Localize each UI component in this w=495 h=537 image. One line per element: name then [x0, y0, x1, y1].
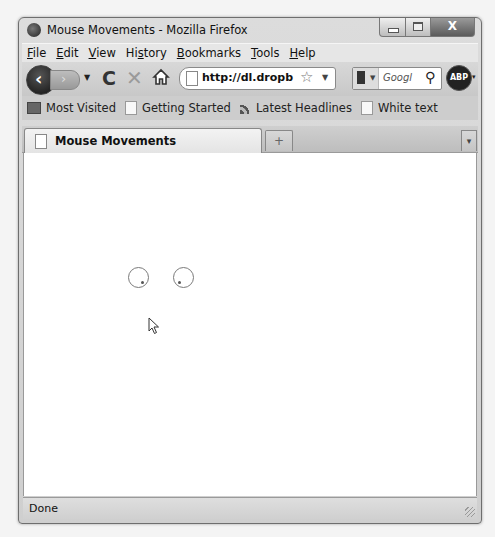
google-icon [357, 71, 365, 84]
right-eye [173, 267, 194, 288]
mouse-cursor-icon [148, 317, 160, 335]
tab-strip: Mouse Movements + ▾ [22, 126, 478, 153]
page-icon [125, 101, 137, 115]
maximize-button[interactable] [406, 18, 431, 37]
menu-edit[interactable]: Edit [51, 46, 83, 60]
title-bar[interactable]: Mouse Movements - Mozilla Firefox X [19, 18, 481, 42]
page-content[interactable] [23, 153, 477, 496]
folder-icon [27, 102, 41, 114]
forward-button[interactable]: › [50, 70, 80, 90]
adblock-dropdown-icon[interactable]: ▾ [472, 73, 476, 81]
back-arrow-icon: ‹ [35, 68, 42, 89]
menu-help[interactable]: Help [284, 46, 320, 60]
bookmark-label: Getting Started [142, 101, 231, 115]
tab-mouse-movements[interactable]: Mouse Movements [24, 128, 262, 153]
engine-dropdown-icon: ▼ [370, 74, 375, 82]
menu-view-label: iew [96, 46, 116, 60]
search-bar[interactable]: ▼ Googl ⚲ [352, 67, 442, 90]
firefox-icon [27, 23, 41, 37]
bookmark-latest-headlines[interactable]: Latest Headlines [240, 101, 352, 115]
menu-edit-label: dit [64, 46, 79, 60]
adblock-plus-button[interactable]: ABP [446, 65, 472, 91]
menu-bookmarks-label: ookmarks [185, 46, 241, 60]
close-button[interactable]: X [431, 18, 475, 37]
url-dropdown-icon[interactable]: ▼ [322, 73, 328, 82]
url-bar[interactable]: http://dl.dropb ☆ ▼ [179, 67, 336, 90]
resize-grip[interactable] [465, 507, 475, 517]
menu-bookmarks-mnemonic: B [177, 46, 185, 60]
navigation-toolbar: ‹ › ▼ C ✕ http://dl.dropb ☆ ▼ ▼ Googl ⚲ … [22, 62, 478, 96]
bookmark-label: Most Visited [46, 101, 116, 115]
page-icon [35, 134, 47, 149]
home-icon[interactable] [152, 68, 170, 86]
stop-button[interactable]: ✕ [126, 66, 143, 90]
menu-help-mnemonic: H [289, 46, 298, 60]
rss-icon [240, 103, 251, 114]
new-tab-button[interactable]: + [265, 130, 293, 151]
left-pupil [141, 281, 144, 284]
menu-bookmarks[interactable]: Bookmarks [172, 46, 246, 60]
list-all-tabs-button[interactable]: ▾ [461, 130, 477, 151]
window-title: Mouse Movements - Mozilla Firefox [47, 23, 248, 37]
close-icon: X [431, 19, 474, 33]
search-engine-button[interactable]: ▼ [353, 68, 379, 89]
window-controls: X [379, 18, 475, 37]
reload-button[interactable]: C [102, 67, 116, 89]
menu-bar: File Edit View History Bookmarks Tools H… [22, 43, 478, 62]
forward-arrow-icon: › [61, 71, 66, 86]
menu-tools[interactable]: Tools [246, 46, 284, 60]
menu-view[interactable]: View [84, 46, 121, 60]
menu-help-label: elp [298, 46, 316, 60]
menu-history[interactable]: History [121, 46, 172, 60]
page-icon [361, 101, 373, 115]
menu-file[interactable]: File [22, 46, 51, 60]
right-pupil [178, 281, 181, 284]
menu-history-label: tory [144, 46, 167, 60]
browser-window: Mouse Movements - Mozilla Firefox X File… [18, 17, 482, 524]
status-text: Done [29, 502, 58, 515]
search-input[interactable]: Googl [383, 72, 412, 83]
bookmark-getting-started[interactable]: Getting Started [125, 101, 231, 115]
history-dropdown-icon[interactable]: ▼ [84, 73, 90, 82]
site-identity-icon[interactable] [186, 71, 198, 86]
url-text[interactable]: http://dl.dropb [202, 71, 293, 84]
bookmark-label: Latest Headlines [256, 101, 352, 115]
minimize-icon [388, 28, 399, 33]
menu-tools-label: ools [256, 46, 279, 60]
bookmark-label: White text [378, 101, 438, 115]
search-icon[interactable]: ⚲ [425, 69, 435, 85]
menu-file-label: ile [33, 46, 46, 60]
bookmark-white-text[interactable]: White text [361, 101, 438, 115]
left-eye [128, 267, 149, 288]
bookmark-star-icon[interactable]: ☆ [300, 68, 313, 86]
bookmarks-toolbar: Most Visited Getting Started Latest Head… [22, 96, 478, 120]
status-bar: Done [23, 497, 477, 519]
menu-history-prefix: Hi [126, 46, 138, 60]
menu-edit-mnemonic: E [56, 46, 63, 60]
tab-title: Mouse Movements [55, 134, 176, 148]
maximize-icon [413, 22, 423, 31]
bookmark-most-visited[interactable]: Most Visited [27, 101, 116, 115]
minimize-button[interactable] [379, 18, 406, 37]
